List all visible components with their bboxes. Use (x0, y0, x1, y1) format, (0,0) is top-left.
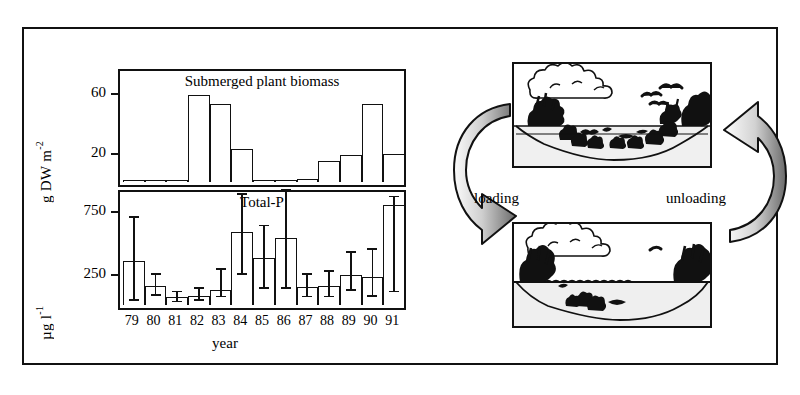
turbid-lake-drawing (514, 224, 710, 326)
errorbar-80 (155, 275, 157, 297)
errorbar-87 (306, 275, 308, 298)
errorbar-cap-lower-87 (302, 296, 312, 298)
errorbar-cap-lower-91 (389, 291, 399, 293)
ytick-total-p-250 (111, 274, 118, 276)
bar-submerged-plant-biomass-82 (188, 95, 210, 182)
errorbar-cap-lower-81 (172, 301, 182, 303)
errorbar-cap-upper-82 (194, 287, 204, 289)
ytick-label-total-p-250: 250 (62, 265, 106, 282)
loading-label: loading (474, 190, 519, 207)
charts-container: g DW m-2 µg l-1 Submerged plant biomass … (30, 35, 420, 355)
unloading-label: unloading (666, 190, 726, 207)
errorbar-cap-upper-80 (151, 273, 161, 275)
top-chart-plot-area (120, 71, 404, 185)
top-yaxis-label-text: g DW m (38, 150, 54, 203)
errorbar-84 (241, 195, 243, 275)
ytick-submerged-plant-biomass-60 (111, 93, 118, 95)
total-p-chart: Total-P (118, 190, 406, 310)
ytick-submerged-plant-biomass-20 (111, 153, 118, 155)
errorbar-cap-upper-79 (129, 216, 139, 218)
bar-submerged-plant-biomass-79 (123, 180, 145, 182)
bar-submerged-plant-biomass-83 (210, 104, 232, 182)
ytick-label-submerged-plant-biomass-20: 20 (62, 144, 106, 161)
bar-submerged-plant-biomass-84 (231, 149, 253, 182)
xaxis-title: year (80, 335, 370, 352)
clear-lake-drawing (514, 64, 710, 166)
errorbar-89 (350, 253, 352, 291)
loading-arrow-icon (448, 98, 534, 248)
bottom-chart-plot-area (120, 192, 404, 308)
errorbar-cap-lower-88 (324, 296, 334, 298)
errorbar-cap-upper-86 (281, 189, 291, 191)
errorbar-85 (263, 226, 265, 288)
illustration-clear-water-vegetated-lake (512, 62, 712, 168)
ytick-total-p-750 (111, 211, 118, 213)
unloading-arrow-icon (706, 98, 792, 248)
errorbar-83 (220, 270, 222, 298)
errorbar-cap-lower-85 (259, 287, 269, 289)
bar-submerged-plant-biomass-81 (166, 180, 188, 182)
errorbar-cap-lower-79 (129, 299, 139, 301)
bar-submerged-plant-biomass-85 (253, 180, 275, 182)
errorbar-cap-lower-86 (281, 287, 291, 289)
bottom-yaxis-label-exponent: -1 (34, 306, 45, 315)
illustration-turbid-water-lake (512, 222, 712, 328)
errorbar-cap-lower-83 (216, 296, 226, 298)
errorbar-cap-upper-85 (259, 225, 269, 227)
errorbar-cap-upper-83 (216, 268, 226, 270)
errorbar-cap-lower-82 (194, 299, 204, 301)
errorbar-cap-upper-89 (346, 251, 356, 253)
errorbar-cap-upper-84 (237, 193, 247, 195)
errorbar-cap-upper-81 (172, 291, 182, 293)
errorbar-79 (133, 218, 135, 302)
errorbar-cap-lower-89 (346, 289, 356, 291)
bottom-chart-yaxis-title: µg l-1 (34, 235, 55, 340)
errorbar-88 (328, 272, 330, 297)
xtick-label-91: 91 (377, 313, 407, 329)
errorbar-86 (285, 191, 287, 289)
bar-submerged-plant-biomass-88 (318, 161, 340, 182)
top-chart-yaxis-title: g DW m-2 (34, 83, 55, 203)
bar-submerged-plant-biomass-90 (362, 104, 384, 182)
bottom-yaxis-label-text: µg l (38, 315, 54, 340)
ytick-label-submerged-plant-biomass-60: 60 (62, 84, 106, 101)
errorbar-cap-upper-87 (302, 273, 312, 275)
errorbar-91 (393, 197, 395, 292)
errorbar-cap-lower-80 (151, 294, 161, 296)
bar-submerged-plant-biomass-89 (340, 155, 362, 182)
submerged-plant-biomass-chart: Submerged plant biomass (118, 69, 406, 187)
errorbar-cap-lower-84 (237, 273, 247, 275)
errorbar-cap-lower-90 (367, 295, 377, 297)
errorbar-cap-upper-88 (324, 270, 334, 272)
bar-submerged-plant-biomass-91 (383, 154, 405, 182)
errorbar-90 (372, 250, 374, 297)
ytick-label-total-p-750: 750 (62, 202, 106, 219)
top-yaxis-label-exponent: -2 (34, 141, 45, 150)
bar-submerged-plant-biomass-87 (297, 179, 319, 182)
errorbar-cap-upper-91 (389, 196, 399, 198)
bar-submerged-plant-biomass-86 (275, 180, 297, 182)
errorbar-cap-upper-90 (367, 248, 377, 250)
figure-root: g DW m-2 µg l-1 Submerged plant biomass … (0, 0, 800, 395)
bar-submerged-plant-biomass-80 (145, 180, 167, 182)
